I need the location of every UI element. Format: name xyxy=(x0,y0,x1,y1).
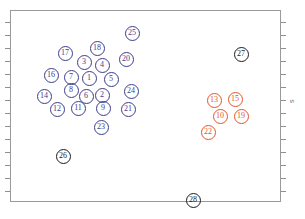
axis-tick-left-2 xyxy=(5,48,10,49)
axis-tick-left-0 xyxy=(5,22,10,23)
axis-tick-right-6 xyxy=(281,100,286,101)
axis-tick-right-13 xyxy=(281,191,286,192)
data-point-label: 21 xyxy=(124,105,132,113)
data-point-3[interactable]: 3 xyxy=(77,55,92,70)
data-point-11[interactable]: 11 xyxy=(71,101,86,116)
axis-tick-left-12 xyxy=(5,178,10,179)
data-point-17[interactable]: 17 xyxy=(58,46,73,61)
data-point-23[interactable]: 23 xyxy=(94,120,109,135)
axis-tick-right-3 xyxy=(281,61,286,62)
data-point-label: 2 xyxy=(100,91,104,99)
axis-tick-left-4 xyxy=(5,74,10,75)
data-point-1[interactable]: 1 xyxy=(82,71,97,86)
data-point-label: 8 xyxy=(69,86,73,94)
data-point-label: 25 xyxy=(128,29,136,37)
data-point-8[interactable]: 8 xyxy=(64,83,79,98)
data-point-label: 10 xyxy=(216,112,224,120)
data-point-14[interactable]: 14 xyxy=(37,89,52,104)
data-point-label: 4 xyxy=(100,61,104,69)
data-point-25[interactable]: 25 xyxy=(125,26,140,41)
data-point-label: 24 xyxy=(127,87,135,95)
scatter-plot-screenshot: s 12345678911121416171820212324251013151… xyxy=(0,0,305,219)
axis-tick-left-8 xyxy=(5,126,10,127)
data-point-label: 18 xyxy=(93,44,101,52)
axis-tick-right-7 xyxy=(281,113,286,114)
data-point-20[interactable]: 20 xyxy=(119,52,134,67)
data-point-label: 19 xyxy=(237,112,245,120)
axis-tick-right-10 xyxy=(281,152,286,153)
data-point-9[interactable]: 9 xyxy=(96,101,111,116)
data-point-21[interactable]: 21 xyxy=(121,102,136,117)
data-point-label: 20 xyxy=(122,55,130,63)
axis-tick-left-6 xyxy=(5,100,10,101)
data-point-label: 3 xyxy=(82,58,86,66)
axis-tick-left-10 xyxy=(5,152,10,153)
data-point-label: 12 xyxy=(53,105,61,113)
data-point-12[interactable]: 12 xyxy=(50,102,65,117)
data-point-label: 26 xyxy=(59,152,67,160)
data-point-13[interactable]: 13 xyxy=(207,93,222,108)
data-point-4[interactable]: 4 xyxy=(95,58,110,73)
axis-tick-right-2 xyxy=(281,48,286,49)
data-point-label: 17 xyxy=(61,49,69,57)
axis-tick-right-4 xyxy=(281,74,286,75)
data-point-label: 27 xyxy=(237,50,245,58)
axis-tick-left-9 xyxy=(5,139,10,140)
axis-tick-right-12 xyxy=(281,178,286,179)
axis-label-right: s xyxy=(288,100,295,104)
axis-tick-right-0 xyxy=(281,22,286,23)
data-point-label: 5 xyxy=(109,75,113,83)
data-point-label: 16 xyxy=(47,71,55,79)
data-point-24[interactable]: 24 xyxy=(124,84,139,99)
axis-tick-right-9 xyxy=(281,139,286,140)
data-point-19[interactable]: 19 xyxy=(234,109,249,124)
data-point-label: 28 xyxy=(189,196,197,204)
axis-tick-right-8 xyxy=(281,126,286,127)
data-point-22[interactable]: 22 xyxy=(201,125,216,140)
data-point-28[interactable]: 28 xyxy=(186,193,201,208)
data-point-27[interactable]: 27 xyxy=(234,47,249,62)
axis-tick-left-5 xyxy=(5,87,10,88)
data-point-label: 7 xyxy=(69,73,73,81)
axis-tick-right-1 xyxy=(281,35,286,36)
data-point-16[interactable]: 16 xyxy=(44,68,59,83)
axis-tick-right-11 xyxy=(281,165,286,166)
data-point-15[interactable]: 15 xyxy=(228,92,243,107)
data-point-label: 15 xyxy=(231,95,239,103)
data-point-18[interactable]: 18 xyxy=(90,41,105,56)
data-point-label: 1 xyxy=(87,74,91,82)
axis-tick-left-11 xyxy=(5,165,10,166)
axis-tick-left-3 xyxy=(5,61,10,62)
data-point-label: 14 xyxy=(40,92,48,100)
axis-tick-left-13 xyxy=(5,191,10,192)
data-point-label: 11 xyxy=(74,104,82,112)
axis-tick-left-1 xyxy=(5,35,10,36)
data-point-label: 23 xyxy=(97,123,105,131)
data-point-5[interactable]: 5 xyxy=(104,72,119,87)
data-point-label: 6 xyxy=(84,92,88,100)
axis-tick-left-7 xyxy=(5,113,10,114)
axis-tick-right-5 xyxy=(281,87,286,88)
data-point-label: 22 xyxy=(204,128,212,136)
data-point-label: 9 xyxy=(101,104,105,112)
data-point-label: 13 xyxy=(210,96,218,104)
data-point-26[interactable]: 26 xyxy=(56,149,71,164)
data-point-10[interactable]: 10 xyxy=(213,109,228,124)
